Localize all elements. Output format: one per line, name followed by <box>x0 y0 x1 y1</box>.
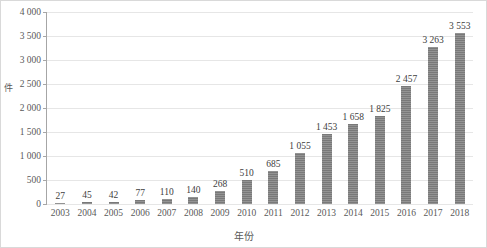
x-axis-tick-label: 2018 <box>450 207 469 219</box>
x-axis-tick-labels: 2003200420052006200720082009201020112012… <box>47 207 473 221</box>
bar-chart-figure: 件 05001 0001 5002 0002 5003 0003 5004 00… <box>0 0 487 248</box>
y-axis-tick-label: 3 000 <box>20 55 41 65</box>
bar[interactable] <box>455 33 465 204</box>
bar-slot: 1 055 <box>287 12 314 204</box>
bar-slot: 2 457 <box>393 12 420 204</box>
bar-value-label: 510 <box>240 168 254 178</box>
bar[interactable] <box>401 86 411 204</box>
x-axis-tick-label: 2004 <box>77 207 96 219</box>
y-axis-tick-label: 3 500 <box>20 31 41 41</box>
bar-value-label: 3 553 <box>449 21 470 31</box>
bar[interactable] <box>242 180 252 204</box>
bar-value-label: 45 <box>82 190 92 200</box>
bar-value-label: 1 825 <box>369 104 390 114</box>
bar-slot: 1 825 <box>367 12 394 204</box>
bar-slot: 140 <box>180 12 207 204</box>
bar[interactable] <box>55 203 65 205</box>
bar-value-label: 140 <box>186 185 200 195</box>
x-axis-tick-label: 2013 <box>317 207 336 219</box>
y-axis-title: 件 <box>1 83 15 93</box>
bar-slot: 1 658 <box>340 12 367 204</box>
y-axis-tick-label: 500 <box>27 175 41 185</box>
x-axis-tick-label: 2010 <box>237 207 256 219</box>
bar-slot: 510 <box>233 12 260 204</box>
bar-value-label: 268 <box>213 179 227 189</box>
bar-slot: 110 <box>154 12 181 204</box>
y-axis-tick-label: 4 000 <box>20 7 41 17</box>
bar-value-label: 27 <box>56 191 66 201</box>
bar[interactable] <box>322 134 332 204</box>
bar-slot: 1 453 <box>313 12 340 204</box>
bar[interactable] <box>162 199 172 204</box>
bar-value-label: 1 055 <box>289 141 310 151</box>
x-axis-title: 年份 <box>1 228 486 243</box>
x-axis-tick-label: 2011 <box>264 207 283 219</box>
x-axis-tick-label: 2012 <box>290 207 309 219</box>
bar-value-label: 685 <box>266 159 280 169</box>
bar-slot: 77 <box>127 12 154 204</box>
bar[interactable] <box>348 124 358 204</box>
bar-series: 274542771101402685106851 0551 4531 6581 … <box>47 12 473 204</box>
gridline <box>47 204 473 205</box>
y-axis-tick-label: 1 000 <box>20 151 41 161</box>
bar[interactable] <box>375 116 385 204</box>
bar[interactable] <box>82 202 92 204</box>
bar-value-label: 1 453 <box>316 122 337 132</box>
bar[interactable] <box>268 171 278 204</box>
y-axis-tick-label: 2 000 <box>20 103 41 113</box>
x-axis-tick-label: 2016 <box>397 207 416 219</box>
y-axis-tick-label: 2 500 <box>20 79 41 89</box>
bar-value-label: 110 <box>160 187 174 197</box>
bar-value-label: 1 658 <box>343 112 364 122</box>
y-axis-tick <box>43 204 47 205</box>
x-axis-tick-label: 2005 <box>104 207 123 219</box>
bar-value-label: 2 457 <box>396 74 417 84</box>
x-axis-tick-label: 2006 <box>131 207 150 219</box>
bar[interactable] <box>109 202 119 204</box>
y-axis-tick-label: 1 500 <box>20 127 41 137</box>
bar-value-label: 77 <box>135 188 145 198</box>
bar[interactable] <box>188 197 198 204</box>
x-axis-tick-label: 2008 <box>184 207 203 219</box>
bar-value-label: 3 263 <box>422 35 443 45</box>
bar-slot: 3 553 <box>446 12 473 204</box>
bar-slot: 268 <box>207 12 234 204</box>
bar-slot: 42 <box>100 12 127 204</box>
bar-slot: 45 <box>74 12 101 204</box>
bar[interactable] <box>135 200 145 204</box>
y-axis-tick-label: 0 <box>36 199 41 209</box>
bar-slot: 3 263 <box>420 12 447 204</box>
x-axis-tick-label: 2007 <box>157 207 176 219</box>
bar[interactable] <box>428 47 438 204</box>
bar-value-label: 42 <box>109 190 119 200</box>
bar[interactable] <box>215 191 225 204</box>
bar[interactable] <box>295 153 305 204</box>
x-axis-tick-label: 2015 <box>370 207 389 219</box>
x-axis-tick-label: 2003 <box>51 207 70 219</box>
plot-area: 05001 0001 5002 0002 5003 0003 5004 000 … <box>47 12 473 204</box>
x-axis-tick-label: 2009 <box>211 207 230 219</box>
x-axis-tick-label: 2014 <box>344 207 363 219</box>
bar-slot: 685 <box>260 12 287 204</box>
x-axis-tick-label: 2017 <box>424 207 443 219</box>
bar-slot: 27 <box>47 12 74 204</box>
